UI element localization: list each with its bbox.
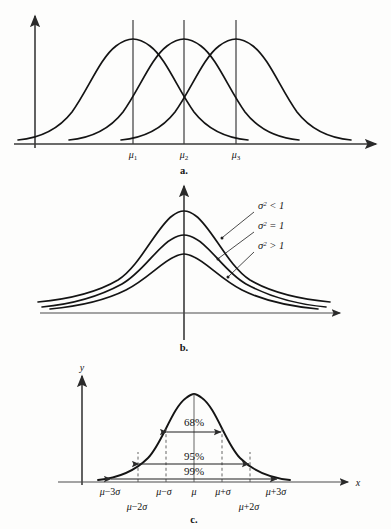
panel-a-mean-label-2: μ2 [179,149,189,162]
panel-b-caption: b. [180,342,189,353]
panel-c-empirical-rule: y x 68% 95% 99% μ−3σ μ−σ μ μ+σ μ+3σ μ−2σ… [0,360,391,529]
panel-b-legend-small-variance: σ2 < 1 [258,200,284,212]
panel-c-tick-plus-sigma: μ+σ [214,486,232,497]
panel-c-tick-minus-2sigma: μ−2σ [126,501,149,512]
panel-c-tick-plus-3sigma: μ+3σ [265,486,288,497]
panel-a-mean-label-3: μ3 [231,149,241,162]
panel-c-percent-68: 68% [184,416,204,428]
panel-b-leader-dot-3 [227,276,230,279]
panel-b-different-variances: σ2 < 1 σ2 = 1 σ2 > 1 b. [0,180,391,360]
panel-c-percent-95: 95% [184,450,204,462]
panel-a-different-means: μ1 μ2 μ3 a. [0,0,391,180]
panel-b-legend-large-variance: σ2 > 1 [258,240,284,252]
panel-c-tick-mu: μ [190,486,196,497]
panel-c-x-axis-label: x [355,477,361,488]
panel-a-mean-label-1: μ1 [128,149,138,162]
panel-c-tick-minus-3sigma: μ−3σ [99,486,122,497]
panel-c-caption: c. [190,514,198,525]
panel-b-leader-1 [223,212,254,237]
panel-b-legend-unit-variance: σ2 = 1 [258,220,284,232]
panel-a-caption: a. [180,165,188,176]
normal-distribution-figure: μ1 μ2 μ3 a. σ2 < 1 [0,0,391,529]
panel-c-percent-99: 99% [184,465,204,477]
panel-c-tick-minus-sigma: μ−σ [155,486,173,497]
panel-c-tick-plus-2sigma: μ+2σ [238,501,261,512]
panel-b-leader-dot-2 [217,258,220,261]
panel-b-leader-dot-1 [221,237,224,240]
panel-c-y-axis-label: y [79,362,85,373]
